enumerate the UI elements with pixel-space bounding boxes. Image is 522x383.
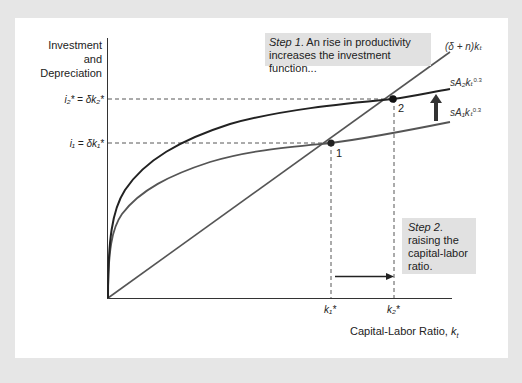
step2-text: . xyxy=(440,221,443,233)
curve-a2-label-text: sA₂kₜ xyxy=(450,77,473,88)
step2-line3: capital-labor xyxy=(408,247,476,260)
shift-up-arrow-icon xyxy=(430,94,442,121)
step1-line2: increases the investment function... xyxy=(269,49,431,75)
shift-right-arrow-icon xyxy=(335,273,394,280)
depreciation-line xyxy=(108,52,450,298)
y-axis-label-line2: Depreciation xyxy=(28,66,102,80)
point-2-label: 2 xyxy=(398,102,404,115)
curve-a2-exponent: 0.3 xyxy=(473,77,481,83)
investment-curve-a2 xyxy=(108,89,450,298)
y-axis-label-line1: Investment and xyxy=(28,38,102,66)
y-tick-high: i₂* = δk₂* xyxy=(40,93,104,106)
equilibrium-point-2 xyxy=(389,95,397,103)
step2-line1: Step 2. xyxy=(408,221,476,234)
x-tick-k1: k₁* xyxy=(324,303,336,316)
x-axis-label-sub: t xyxy=(456,332,458,339)
step1-line1: Step 1. An rise in productivity xyxy=(269,36,431,49)
depreciation-line-label: (δ + n)kₜ xyxy=(445,41,482,52)
step1-note: Step 1. An rise in productivity increase… xyxy=(265,33,431,66)
curve-a1-exponent: 0.3 xyxy=(473,107,481,113)
investment-curve-a1 xyxy=(108,122,450,298)
y-tick-low: i₁ = δk₁* xyxy=(40,137,104,150)
x-axis-label-text: Capital-Labor Ratio, xyxy=(350,325,451,337)
step2-heading: Step 2 xyxy=(408,221,440,233)
step2-line2: raising the xyxy=(408,234,476,247)
step2-note: Step 2. raising the capital-labor ratio. xyxy=(402,218,476,274)
curve-a1-label: sA₁kₜ0.3 xyxy=(450,107,481,118)
point-1-label: 1 xyxy=(336,147,342,160)
x-tick-k2: k₂* xyxy=(387,303,400,316)
step1-text: . An rise in productivity xyxy=(301,36,411,48)
x-axis-label: Capital-Labor Ratio, kt xyxy=(350,325,458,342)
curve-a2-label: sA₂kₜ0.3 xyxy=(450,77,482,88)
curve-a1-label-text: sA₁kₜ xyxy=(450,107,473,118)
equilibrium-point-1 xyxy=(327,139,334,146)
step1-heading: Step 1 xyxy=(269,36,301,48)
y-axis-label: Investment and Depreciation xyxy=(28,38,102,80)
step2-line4: ratio. xyxy=(408,260,476,273)
